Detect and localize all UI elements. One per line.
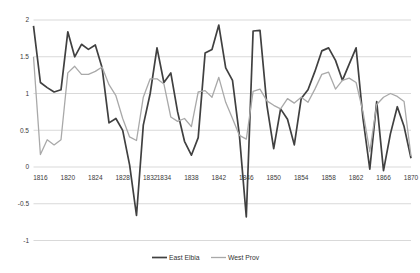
x-tick-label: 1824 — [88, 174, 103, 181]
y-tick-label: 0.5 — [20, 127, 29, 134]
plot-series — [34, 25, 412, 217]
y-tick-label: 1 — [25, 90, 29, 97]
x-tick-label: 1820 — [61, 174, 76, 181]
line-chart: 21.510.50-0.5-1 181618201824182818321834… — [0, 0, 420, 273]
legend-label-west-prov: West Prov — [228, 254, 260, 261]
x-tick-label: 1828 — [115, 174, 130, 181]
x-axis-tick-labels: 1816182018241828183218341838184218461850… — [33, 174, 418, 181]
x-tick-label: 1846 — [239, 174, 254, 181]
y-tick-label: -1 — [23, 237, 29, 244]
x-tick-label: 1854 — [294, 174, 309, 181]
y-tick-label: 1.5 — [20, 53, 29, 60]
y-tick-label: 0 — [25, 163, 29, 170]
legend: East Elbia West Prov — [152, 254, 260, 261]
x-tick-label: 1866 — [376, 174, 391, 181]
x-tick-label: 1850 — [266, 174, 281, 181]
x-tick-label: 1842 — [212, 174, 227, 181]
y-axis-tick-labels: 21.510.50-0.5-1 — [18, 16, 30, 244]
x-tick-label: 1870 — [404, 174, 419, 181]
x-tick-label: 1834 — [157, 174, 172, 181]
x-tick-label: 1816 — [33, 174, 48, 181]
chart-canvas: 21.510.50-0.5-1 181618201824182818321834… — [0, 0, 420, 273]
y-tick-label: 2 — [25, 16, 29, 23]
x-tick-label: 1832 — [143, 174, 158, 181]
series-line-1 — [34, 57, 412, 156]
y-tick-label: -0.5 — [18, 200, 30, 207]
legend-label-east-elbia: East Elbia — [169, 254, 200, 261]
x-tick-label: 1858 — [321, 174, 336, 181]
series-line-0 — [34, 25, 412, 217]
x-tick-label: 1862 — [349, 174, 364, 181]
x-tick-label: 1838 — [184, 174, 199, 181]
